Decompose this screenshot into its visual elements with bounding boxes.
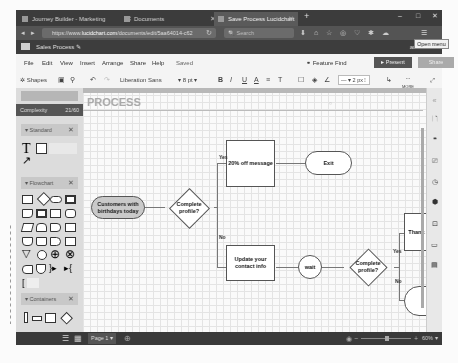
text-options-button[interactable]: T (278, 72, 282, 88)
sync-icon[interactable]: ◎ (340, 28, 346, 38)
new-tab-button[interactable]: + (304, 11, 309, 21)
preparation-shape[interactable] (65, 209, 76, 218)
back-icon[interactable]: ◂ (21, 28, 25, 38)
search-icon[interactable]: ⚲ (70, 72, 75, 88)
edit-pencil-icon[interactable]: ✎ (76, 44, 81, 50)
align-button[interactable]: ≡ (266, 72, 270, 88)
layers-icon[interactable]: ⬢ (430, 197, 439, 206)
border-icon[interactable]: ☐ (298, 72, 304, 88)
blank-shape[interactable] (27, 278, 39, 288)
summing-junction-shape[interactable]: ⊗ (65, 247, 75, 261)
zoom-slider-handle[interactable] (385, 336, 389, 341)
node-wait[interactable]: wait (298, 255, 322, 279)
redo-icon[interactable]: ↷ (104, 72, 110, 88)
document-shape[interactable] (22, 209, 33, 218)
menu-insert[interactable]: Insert (80, 54, 95, 72)
underline-button[interactable]: U (242, 72, 247, 88)
subprocess-shape[interactable] (65, 195, 76, 204)
share-button[interactable]: Share (418, 57, 454, 68)
diamond-container-shape[interactable] (60, 312, 73, 325)
reload-icon[interactable]: ↻ (206, 28, 212, 38)
arrow-line-shape[interactable]: ↗ (22, 154, 31, 167)
zoom-fit-icon[interactable]: ◉ (346, 332, 352, 345)
url-bar[interactable]: https://www.lucidchart.com/documents/edi… (42, 28, 216, 38)
process-shape[interactable] (22, 195, 33, 204)
text-color-button[interactable]: A (254, 72, 259, 88)
menu-edit[interactable]: Edit (42, 54, 52, 72)
section-containers[interactable]: ▾ Containers ✕ (21, 293, 78, 305)
connector-shape[interactable] (37, 250, 47, 260)
shape-search-input[interactable] (21, 91, 78, 101)
stored-data-shape[interactable] (65, 237, 76, 246)
close-window-button[interactable]: ✕ (432, 12, 438, 20)
close-tab-icon[interactable]: ✕ (288, 12, 294, 26)
tab-sales-process[interactable]: Save Process Lucidchart ✕ (214, 12, 298, 26)
minimize-button[interactable]: – (398, 12, 402, 19)
annotation-left-shape[interactable]: ▸{ (64, 263, 72, 273)
menu-arrange[interactable]: Arrange (102, 54, 123, 72)
pool-shape[interactable] (24, 312, 28, 323)
shapes-button[interactable]: ✲ Shapes (20, 72, 47, 88)
account-icon[interactable]: ☁ (382, 28, 389, 38)
card-shape[interactable] (22, 237, 33, 246)
rectangle-shape[interactable] (36, 143, 47, 154)
delay-alt-shape[interactable] (50, 237, 61, 246)
menu-share[interactable]: Share (130, 54, 146, 72)
section-flowchart[interactable]: ▾ Flowchart ✕ (21, 177, 78, 189)
list-view-icon[interactable]: ☰ (62, 332, 69, 345)
menu-help[interactable]: Help (152, 54, 164, 72)
manual-operation-shape[interactable] (36, 237, 47, 246)
font-size-select[interactable]: ▾ 8 pt ▾ (178, 72, 197, 88)
browser-search-input[interactable]: 🔍 Search (224, 28, 294, 38)
line-width-select[interactable]: — ▾ 2 px ⁝ (338, 75, 370, 85)
folder-icon[interactable] (21, 43, 30, 50)
document-title[interactable]: Sales Process ✎ (36, 40, 81, 54)
data-shape[interactable] (21, 223, 34, 232)
zoom-in-button[interactable]: + (414, 332, 418, 345)
multi-document-shape[interactable] (36, 209, 47, 218)
comment-quote-icon[interactable]: ❝ (430, 135, 439, 144)
delay-shape[interactable] (50, 223, 61, 232)
image-icon[interactable]: ▣ (58, 72, 65, 88)
download-icon[interactable]: ⬇ (300, 28, 306, 38)
fill-color-icon[interactable]: ◈ (312, 72, 317, 88)
database-shape[interactable] (36, 223, 47, 232)
section-standard[interactable]: ▾ Standard ✕ (21, 124, 78, 136)
page-icon[interactable]: 🗋 (430, 114, 439, 123)
line-color-icon[interactable]: ∠ (324, 72, 330, 88)
presentation-icon[interactable]: ⎚ (430, 156, 439, 165)
forward-icon[interactable]: ▸ (31, 28, 35, 38)
bookmark-star-icon[interactable]: ☆ (326, 28, 332, 38)
undo-icon[interactable]: ↶ (90, 72, 96, 88)
tab-journey-builder[interactable]: Journey Builder - Marketing ✕ (18, 12, 136, 26)
menu-view[interactable]: View (60, 54, 73, 72)
calendar-icon[interactable]: ▤ (430, 260, 439, 269)
close-section-icon[interactable]: ✕ (68, 124, 74, 136)
font-family-select[interactable]: Liberation Sans (120, 72, 162, 88)
tab-documents[interactable]: Documents ✕ (120, 12, 220, 26)
menu-file[interactable]: File (24, 54, 34, 72)
maximize-button[interactable]: □ (416, 12, 420, 19)
grid-view-icon[interactable]: ▦ (74, 332, 82, 345)
history-clock-icon[interactable]: ◷ (430, 177, 439, 186)
note-shape[interactable] (49, 143, 77, 154)
annotation-shape[interactable]: }▸ (49, 263, 57, 273)
lock-icon[interactable]: ⌂ (314, 28, 318, 38)
terminator-shape[interactable] (50, 196, 62, 203)
feature-find-button[interactable]: ⚭ Feature Find (306, 58, 347, 68)
hamburger-menu-icon[interactable]: ☰ (421, 28, 427, 38)
node-start[interactable]: Customers with birthdays today (91, 196, 145, 219)
bold-button[interactable]: B (218, 72, 223, 88)
node-exit[interactable]: Exit (305, 151, 352, 175)
zoom-level-select[interactable]: 60% ▾ (422, 332, 438, 345)
bracket-shape[interactable]: [ (22, 278, 25, 288)
extension-icon[interactable]: ✱ (368, 28, 374, 38)
container-shape[interactable] (45, 313, 56, 323)
merge-shape[interactable]: ▽ (22, 247, 30, 260)
add-page-icon[interactable]: ⊕ (124, 332, 131, 345)
node-offer[interactable]: 20% off message (226, 140, 275, 187)
node-update[interactable]: Update your contact info (226, 245, 275, 281)
lane-shape[interactable] (32, 316, 42, 321)
off-page-shape[interactable] (36, 264, 46, 274)
page-tab[interactable]: Page 1 ▾ (88, 333, 116, 344)
